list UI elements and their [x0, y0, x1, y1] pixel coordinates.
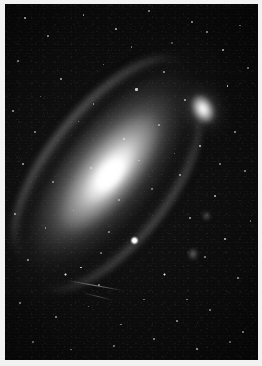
star [78, 121, 80, 123]
star [148, 10, 150, 12]
star [171, 42, 173, 44]
star [60, 78, 62, 80]
star [176, 320, 178, 322]
star [17, 60, 19, 62]
star [196, 348, 198, 350]
star [224, 238, 226, 240]
star [70, 349, 72, 351]
star [90, 167, 92, 169]
star [118, 199, 120, 201]
star [158, 124, 160, 126]
star [226, 85, 228, 87]
star [131, 46, 133, 48]
star [24, 17, 26, 19]
star [234, 131, 236, 133]
star [120, 324, 122, 326]
star [229, 341, 231, 343]
star [27, 259, 29, 261]
star [14, 213, 16, 215]
star-field [5, 4, 258, 360]
star [184, 99, 186, 101]
star [219, 163, 221, 165]
star [93, 103, 95, 105]
star [189, 217, 191, 219]
star [12, 110, 14, 112]
star [19, 302, 21, 304]
star [73, 210, 75, 212]
star [47, 35, 49, 37]
star [32, 341, 34, 343]
star [247, 67, 249, 69]
screenshot-root [0, 0, 262, 366]
star [80, 266, 82, 268]
star [88, 306, 90, 308]
star [214, 195, 216, 197]
star [174, 153, 176, 155]
star [113, 345, 115, 347]
star [179, 174, 181, 176]
star [244, 170, 246, 172]
star [242, 331, 244, 333]
star [199, 145, 201, 147]
star [135, 88, 137, 90]
star [40, 96, 42, 98]
astronomy-photo [5, 4, 258, 360]
star [153, 338, 155, 340]
photo-border [0, 0, 262, 366]
star [206, 31, 208, 33]
star [98, 284, 100, 286]
star [103, 64, 105, 66]
star [52, 181, 54, 183]
star [239, 25, 241, 27]
star [123, 138, 125, 140]
star [209, 309, 211, 311]
star [186, 299, 188, 301]
star [237, 277, 239, 279]
star [250, 220, 252, 222]
star [191, 21, 193, 23]
star [22, 163, 24, 165]
star [83, 14, 85, 16]
star [163, 273, 166, 276]
star [138, 160, 140, 162]
star [222, 49, 224, 51]
star [55, 316, 57, 318]
star [151, 188, 153, 190]
star [115, 28, 117, 30]
star [108, 231, 110, 233]
star [34, 131, 36, 133]
star [204, 256, 206, 258]
star [100, 252, 102, 254]
star [64, 273, 67, 276]
star [143, 299, 145, 301]
star [163, 71, 165, 73]
star [45, 227, 47, 229]
